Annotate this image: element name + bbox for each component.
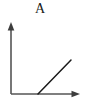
y-axis-arrowhead-icon xyxy=(8,22,15,31)
figure-panel: A xyxy=(0,0,86,105)
data-line-rising xyxy=(38,60,71,94)
plot-area xyxy=(0,0,86,105)
x-axis-arrowhead-icon xyxy=(72,91,81,98)
